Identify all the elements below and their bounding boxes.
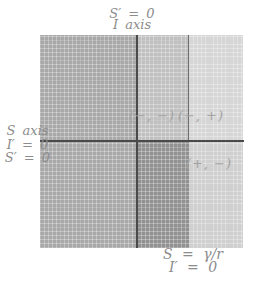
region-top-right [189, 35, 243, 141]
sign-label-bottom-right: (+, −) [184, 156, 234, 171]
top-axis-label: S′ = 0 I axis [77, 8, 187, 30]
left-axis-label-line3: S′ = 0 [1, 151, 54, 165]
left-axis-label-line2: I′ = 0 [1, 138, 54, 152]
left-axis-label: S axis I′ = 0 S′ = 0 [1, 124, 54, 165]
left-axis-label-line1: S axis [1, 124, 54, 138]
top-axis-label-line2: I axis [77, 19, 187, 30]
region-top-middle [137, 35, 189, 141]
bottom-axis-label-line2: I′ = 0 [143, 261, 243, 274]
s-equals-gamma-over-r-line [188, 35, 189, 141]
region-top-left [40, 35, 137, 141]
phase-plane-figure: S′ = 0 I axis S axis I′ = 0 S′ = 0 S = γ… [0, 0, 254, 284]
bottom-axis-label: S = γ/r I′ = 0 [143, 248, 243, 274]
sign-label-top-middle: (−, −) [127, 108, 177, 123]
region-bottom-middle [137, 141, 189, 248]
s-axis-line [40, 140, 244, 142]
region-bottom-left [40, 141, 137, 248]
sign-label-top-right: (−, +) [176, 108, 226, 123]
